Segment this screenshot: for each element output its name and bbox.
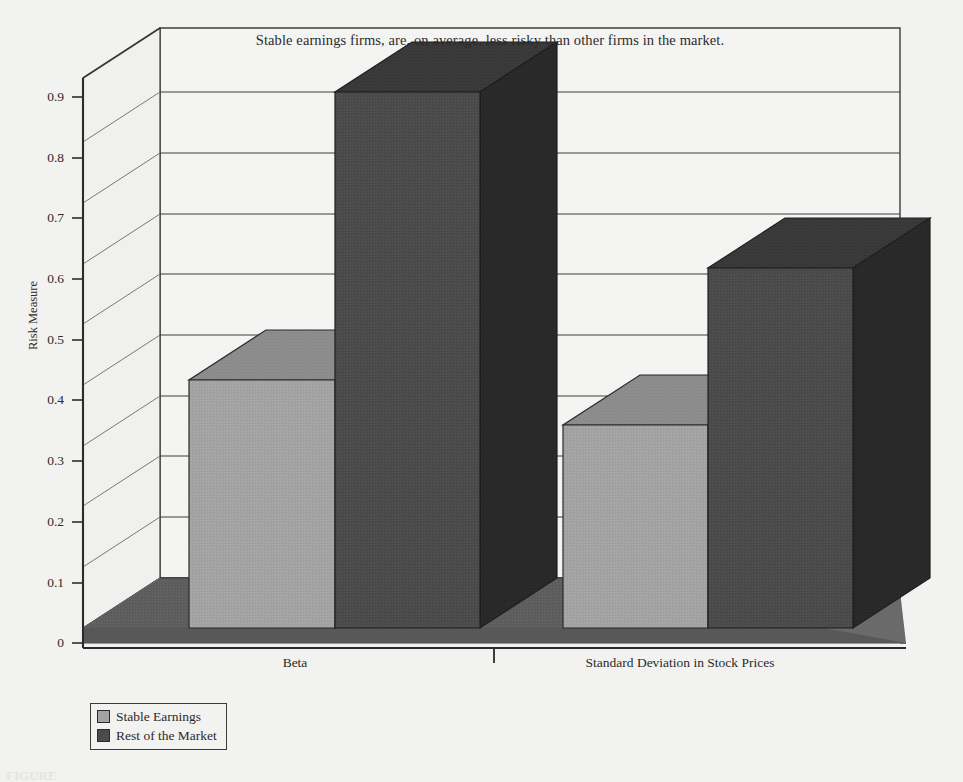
y-tick-label-0.1: 0.1: [20, 575, 64, 591]
y-tick-label-0.5: 0.5: [20, 332, 64, 348]
legend-item-rest-of-market: Rest of the Market: [97, 726, 217, 745]
y-tick-label-0: 0: [20, 635, 64, 651]
x-tick-label-beta: Beta: [215, 655, 375, 671]
y-tick-label-0.2: 0.2: [20, 514, 64, 530]
legend-item-stable-earnings: Stable Earnings: [97, 707, 217, 726]
bar-stddev-rest-of-market: [708, 218, 930, 628]
bar-beta-rest-of-market: [335, 42, 557, 628]
legend-label-rest-of-market: Rest of the Market: [116, 728, 217, 744]
chart-figure: Stable earnings firms, are, on average, …: [0, 0, 963, 782]
legend-swatch-rest-of-market: [97, 729, 110, 742]
y-tick-label-0.6: 0.6: [20, 271, 64, 287]
plot-floor-front: [83, 628, 906, 643]
figure-caption: FIGURE: [6, 768, 57, 782]
legend-label-stable-earnings: Stable Earnings: [116, 709, 201, 725]
y-tick-label-0.7: 0.7: [20, 210, 64, 226]
legend-swatch-stable-earnings: [97, 710, 110, 723]
y-tick-label-0.9: 0.9: [20, 89, 64, 105]
y-tick-label-0.4: 0.4: [20, 392, 64, 408]
chart-title: Stable earnings firms, are, on average, …: [200, 32, 780, 49]
y-tick-label-0.8: 0.8: [20, 150, 64, 166]
chart-legend: Stable Earnings Rest of the Market: [90, 703, 227, 750]
plot-left-wall: [83, 28, 160, 628]
x-tick-label-standard-deviation: Standard Deviation in Stock Prices: [530, 655, 830, 671]
y-tick-label-0.3: 0.3: [20, 453, 64, 469]
